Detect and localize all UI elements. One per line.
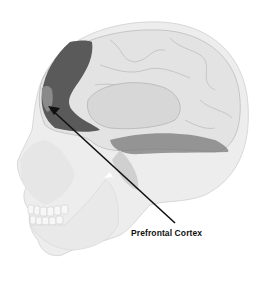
prefrontal-cortex-label: Prefrontal Cortex [131, 228, 202, 238]
skull-brain-diagram: Prefrontal Cortex [0, 0, 263, 285]
